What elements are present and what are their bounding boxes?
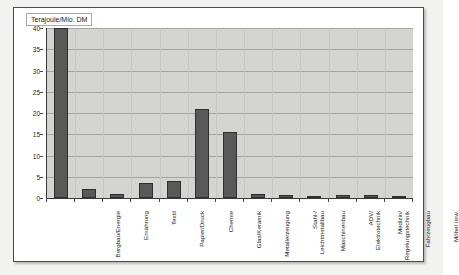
x-axis-tick-mark bbox=[356, 199, 357, 202]
x-axis-tick-mark bbox=[102, 199, 103, 202]
bar[interactable] bbox=[364, 195, 378, 198]
x-axis-tick-mark bbox=[412, 199, 413, 202]
x-axis-ticks bbox=[46, 199, 412, 203]
x-axis-tick-mark bbox=[215, 199, 216, 202]
x-axis-tick-mark bbox=[159, 199, 160, 202]
y-axis-tick-mark bbox=[40, 198, 43, 199]
x-axis-tick-mark bbox=[384, 199, 385, 202]
bar[interactable] bbox=[82, 189, 96, 198]
plot-area bbox=[46, 28, 413, 199]
y-axis-tick-mark bbox=[40, 49, 43, 50]
bar[interactable] bbox=[223, 132, 237, 198]
y-axis-tick-mark bbox=[40, 177, 43, 178]
bar[interactable] bbox=[392, 196, 406, 198]
x-axis-category-label: Textil bbox=[170, 211, 177, 275]
bar[interactable] bbox=[336, 195, 350, 198]
chart-frame: Terajoule/Mio. DM 4035302520151050 Bergb… bbox=[13, 7, 424, 262]
bar-slot bbox=[103, 28, 131, 198]
y-axis-tick-label: 40 bbox=[33, 25, 40, 32]
x-axis-category-label: Metallerzeugung bbox=[283, 211, 290, 275]
x-axis-category-label: Ernährung bbox=[142, 211, 149, 275]
x-axis-category-label: Medizin/ Regelungstechnik bbox=[396, 211, 410, 275]
bar[interactable] bbox=[279, 195, 293, 198]
x-axis-tick-mark bbox=[187, 199, 188, 202]
bar-slot bbox=[272, 28, 300, 198]
bar[interactable] bbox=[139, 183, 153, 198]
bar[interactable] bbox=[195, 109, 209, 198]
y-axis-tick-mark bbox=[40, 134, 43, 135]
y-axis-tick-mark bbox=[40, 113, 43, 114]
bar[interactable] bbox=[110, 194, 124, 198]
bar-slot bbox=[47, 28, 75, 198]
x-axis-tick-mark bbox=[243, 199, 244, 202]
bar-series bbox=[47, 28, 413, 198]
y-axis-tick-mark bbox=[40, 92, 43, 93]
bar-slot bbox=[131, 28, 159, 198]
legend-unit-label: Terajoule/Mio. DM bbox=[31, 16, 87, 23]
y-axis-tick-label: 25 bbox=[33, 88, 40, 95]
x-axis-category-label: Glas/Keramik bbox=[255, 211, 262, 275]
y-axis-tick-label: 15 bbox=[33, 131, 40, 138]
bar[interactable] bbox=[307, 196, 321, 198]
bar-slot bbox=[385, 28, 413, 198]
x-axis-category-label: Maschinenbau bbox=[339, 211, 346, 275]
plot-wrapper: 4035302520151050 bbox=[26, 28, 414, 208]
x-axis-category-label: Papier/Druck bbox=[198, 211, 205, 275]
bar-slot bbox=[329, 28, 357, 198]
bar[interactable] bbox=[167, 181, 181, 198]
x-axis-tick-mark bbox=[130, 199, 131, 202]
y-axis-tick-label: 10 bbox=[33, 152, 40, 159]
bar-slot bbox=[357, 28, 385, 198]
bar-slot bbox=[216, 28, 244, 198]
x-axis-tick-mark bbox=[299, 199, 300, 202]
y-axis-tick-label: 30 bbox=[33, 67, 40, 74]
bar[interactable] bbox=[54, 28, 68, 198]
bar-slot bbox=[75, 28, 103, 198]
bar-slot bbox=[160, 28, 188, 198]
x-axis-category-label: ADV/ Elektrotechnik bbox=[367, 211, 381, 275]
x-axis-tick-mark bbox=[74, 199, 75, 202]
y-axis-tick-mark bbox=[40, 71, 43, 72]
x-axis-category-label: Fahrzeugbau bbox=[424, 211, 431, 275]
x-axis-category-label: Bergbau/Energie bbox=[114, 211, 121, 275]
x-axis-tick-mark bbox=[328, 199, 329, 202]
x-axis-category-label: Möbel usw. bbox=[452, 211, 459, 275]
bar[interactable] bbox=[251, 194, 265, 198]
x-axis-category-label: Stahl-/ Leichtmetallbau bbox=[311, 211, 325, 275]
bar-slot bbox=[300, 28, 328, 198]
x-axis-labels: Bergbau/EnergieErnährungTextilPapier/Dru… bbox=[46, 210, 412, 275]
x-axis-category-label: Chemie bbox=[227, 211, 234, 275]
y-axis-tick-mark bbox=[40, 156, 43, 157]
bar-slot bbox=[188, 28, 216, 198]
x-axis-tick-mark bbox=[271, 199, 272, 202]
y-axis-tick-mark bbox=[40, 28, 43, 29]
y-axis-tick-label: 35 bbox=[33, 46, 40, 53]
x-axis-tick-mark bbox=[46, 199, 47, 202]
y-axis: 4035302520151050 bbox=[26, 28, 43, 198]
y-axis-tick-label: 20 bbox=[33, 110, 40, 117]
bar-slot bbox=[244, 28, 272, 198]
